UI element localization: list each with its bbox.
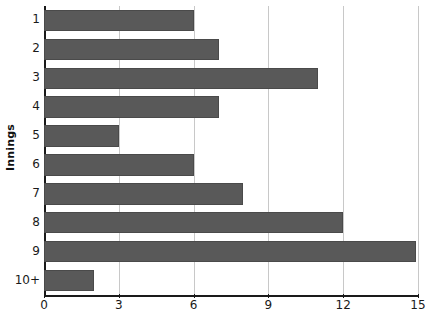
x-tick-mark-3 <box>119 294 120 298</box>
bar-10+[interactable] <box>44 270 94 291</box>
bar-row <box>44 10 418 31</box>
y-tick-label-4: 4 <box>0 99 40 113</box>
y-tick-label-6: 6 <box>0 157 40 171</box>
bar-9[interactable] <box>44 241 416 262</box>
bar-row <box>44 270 418 291</box>
bar-7[interactable] <box>44 183 243 204</box>
bar-row <box>44 68 418 89</box>
y-tick-label-3: 3 <box>0 70 40 84</box>
bar-2[interactable] <box>44 39 219 60</box>
plot-area <box>44 6 418 295</box>
y-tick-label-8: 8 <box>0 215 40 229</box>
gridline-x-15 <box>418 6 419 295</box>
bars-layer <box>44 6 418 295</box>
x-tick-mark-9 <box>268 294 269 298</box>
bar-8[interactable] <box>44 212 343 233</box>
y-axis-tick-labels: 12345678910+ <box>0 6 40 295</box>
x-tick-label-3: 3 <box>115 298 123 312</box>
bar-row <box>44 125 418 146</box>
bar-row <box>44 241 418 262</box>
x-tick-label-9: 9 <box>265 298 273 312</box>
x-tick-label-6: 6 <box>190 298 198 312</box>
bar-6[interactable] <box>44 154 194 175</box>
x-axis-tick-labels: 03691215 <box>44 298 419 320</box>
x-tick-label-15: 15 <box>410 298 425 312</box>
bar-row <box>44 39 418 60</box>
bar-5[interactable] <box>44 125 119 146</box>
bar-1[interactable] <box>44 10 194 31</box>
x-tick-mark-12 <box>343 294 344 298</box>
x-tick-mark-6 <box>194 294 195 298</box>
bar-4[interactable] <box>44 96 219 117</box>
x-axis-line <box>44 295 419 297</box>
x-tick-mark-0 <box>44 294 45 298</box>
bar-chart: Innings 12345678910+ 03691215 <box>0 0 430 323</box>
bar-row <box>44 96 418 117</box>
y-tick-label-2: 2 <box>0 41 40 55</box>
bar-row <box>44 154 418 175</box>
x-tick-label-12: 12 <box>336 298 351 312</box>
x-tick-mark-15 <box>418 294 419 298</box>
x-tick-label-0: 0 <box>40 298 48 312</box>
bar-row <box>44 183 418 204</box>
bar-3[interactable] <box>44 68 318 89</box>
y-tick-label-7: 7 <box>0 186 40 200</box>
bar-row <box>44 212 418 233</box>
y-tick-label-1: 1 <box>0 12 40 26</box>
y-tick-label-5: 5 <box>0 128 40 142</box>
y-tick-label-10+: 10+ <box>0 273 40 287</box>
y-tick-label-9: 9 <box>0 244 40 258</box>
